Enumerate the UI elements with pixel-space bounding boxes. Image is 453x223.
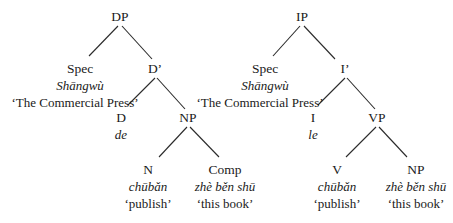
- node-category-i: I: [311, 111, 316, 125]
- node-gloss-n: ‘publish’: [125, 197, 172, 210]
- node-category-vp: VP: [368, 111, 385, 125]
- dp-tree-branch-line: [89, 26, 118, 56]
- node-category-spec: Spec: [252, 62, 278, 76]
- ip-tree-branch-line: [273, 26, 300, 56]
- node-form-spec: Shāngwù: [241, 79, 289, 92]
- node-category-np: NP: [407, 163, 424, 177]
- node-category-np: NP: [179, 111, 196, 125]
- ip-tree-branch-line: [347, 78, 375, 109]
- node-gloss-v: ‘publish’: [314, 197, 361, 210]
- node-gloss-comp: ‘this book’: [197, 197, 254, 210]
- node-category-spec: Spec: [67, 62, 93, 76]
- node-category-d: D: [116, 111, 126, 125]
- node-category-dbar: D’: [148, 62, 162, 76]
- node-form-comp: zhè běn shū: [195, 180, 256, 193]
- node-form-spec: Shāngwù: [56, 79, 104, 92]
- node-category-comp: Comp: [208, 163, 241, 177]
- node-category-n: N: [143, 163, 153, 177]
- ip-tree-branch-line: [346, 127, 376, 157]
- node-form-i: le: [308, 128, 317, 141]
- node-category-dp: DP: [111, 10, 128, 24]
- dp-tree-branch-line: [190, 127, 219, 157]
- node-category-v: V: [332, 163, 342, 177]
- node-gloss-np: ‘this book’: [388, 197, 445, 210]
- dp-tree-branch-line: [122, 26, 152, 59]
- node-gloss-spec: ‘The Commercial Press’: [11, 96, 138, 109]
- dp-tree-branch-line: [157, 78, 185, 109]
- node-category-ip: IP: [296, 10, 308, 24]
- dp-tree-branch-line: [159, 127, 187, 157]
- node-form-n: chūbǎn: [129, 180, 167, 193]
- syntax-tree-diagram: DPSpecShāngwù‘The Commercial Press’D’Dde…: [0, 0, 453, 223]
- ip-tree-branch-line: [379, 127, 407, 157]
- node-form-v: chūbǎn: [318, 180, 356, 193]
- node-category-ibar: I’: [341, 62, 350, 76]
- node-gloss-spec: ‘The Commercial Press’: [196, 96, 323, 109]
- ip-tree-branch-line: [304, 26, 335, 59]
- node-form-d: de: [115, 128, 127, 141]
- node-form-np: zhè běn shū: [386, 180, 447, 193]
